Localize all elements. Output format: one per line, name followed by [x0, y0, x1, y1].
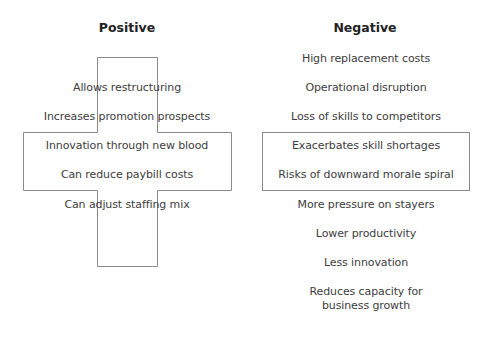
- positive-item: Can adjust staffing mix: [0, 198, 254, 211]
- negative-item: Operational disruption: [250, 81, 482, 94]
- positive-item: Allows restructuring: [0, 81, 254, 94]
- negative-item: More pressure on stayers: [250, 198, 482, 211]
- positive-item: Increases promotion prospects: [0, 110, 254, 123]
- negative-item: High replacement costs: [250, 52, 482, 65]
- positive-heading: Positive: [77, 20, 177, 35]
- negative-item: Loss of skills to competitors: [250, 110, 482, 123]
- negative-heading: Negative: [315, 20, 415, 35]
- negative-item: Reduces capacity for: [250, 285, 482, 298]
- negative-item: Exacerbates skill shortages: [250, 139, 482, 152]
- negative-item: business growth: [250, 299, 482, 312]
- negative-item: Risks of downward morale spiral: [250, 168, 482, 181]
- negative-item: Less innovation: [250, 256, 482, 269]
- negative-item: Lower productivity: [250, 227, 482, 240]
- positive-item: Can reduce paybill costs: [0, 168, 254, 181]
- positive-item: Innovation through new blood: [0, 139, 254, 152]
